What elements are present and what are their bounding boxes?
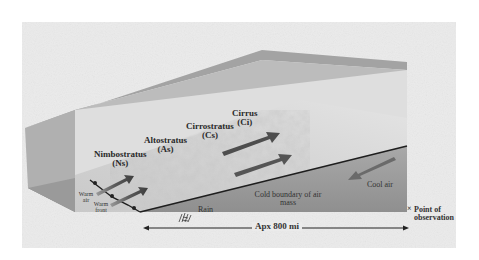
cirrostratus-abbr: (Cs) <box>186 131 234 140</box>
rain-label: Rain <box>198 206 213 214</box>
cirrus-abbr: (Ci) <box>232 118 258 127</box>
cirrus-label: Cirrus (Ci) <box>232 109 258 128</box>
nimbostratus-abbr: (Ns) <box>94 159 147 168</box>
distance-label: Apx 800 mi <box>252 222 302 231</box>
nimbostratus-label: Nimbostratus (Ns) <box>94 150 147 169</box>
diagram-graphic: × <box>0 0 479 260</box>
cirrostratus-label: Cirrostratus (Cs) <box>186 122 234 141</box>
point-of-observation-label: Point of observation <box>414 206 460 223</box>
cool-air-label: Cool air <box>367 181 393 189</box>
warm-front-label: Warm front <box>90 201 112 214</box>
observation-x-mark: × <box>407 204 412 213</box>
altostratus-label: Altostratus (As) <box>144 136 187 155</box>
altostratus-abbr: (As) <box>144 145 187 154</box>
cold-boundary-label: Cold boundary of air mass <box>252 191 324 208</box>
warm-front-diagram: × Cirrus (Ci) Cirrostratus (Cs) Altostra… <box>0 0 479 260</box>
